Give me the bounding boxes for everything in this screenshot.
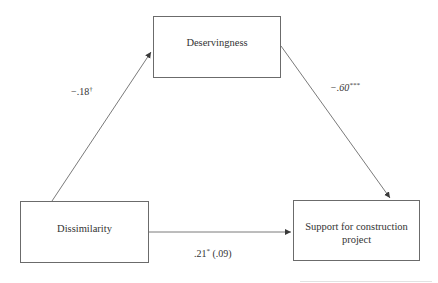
node-deservingness-label: Deservingness — [186, 36, 247, 49]
path-b-sig-marker: *** — [349, 81, 360, 89]
footer-divider — [300, 281, 432, 282]
node-dissimilarity: Dissimilarity — [20, 201, 149, 263]
path-c-coef-value: .21 — [194, 248, 207, 259]
node-deservingness: Deservingness — [153, 16, 281, 78]
node-support-label: Support for construction project — [300, 220, 413, 246]
path-c-direct-effect: (.09) — [210, 248, 232, 259]
node-support-for-construction-project: Support for construction project — [293, 200, 420, 261]
path-c-coefficient: .21* (.09) — [194, 248, 232, 260]
path-b-arrow — [281, 46, 390, 198]
path-a-arrow — [52, 52, 151, 201]
mediation-diagram: Deservingness Dissimilarity Support for … — [0, 0, 438, 283]
path-b-coef-value: −.60 — [330, 82, 349, 93]
path-a-sig-marker: † — [89, 85, 93, 93]
path-a-coefficient: −.18† — [71, 86, 93, 98]
node-dissimilarity-label: Dissimilarity — [57, 222, 112, 235]
path-b-coefficient: −.60*** — [330, 82, 360, 94]
path-a-coef-value: −.18 — [71, 86, 89, 97]
